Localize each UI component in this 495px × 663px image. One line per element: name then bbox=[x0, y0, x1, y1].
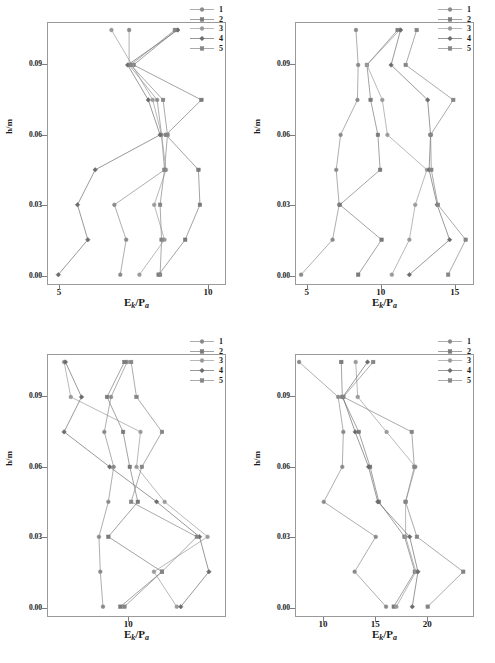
legend-label: 3 bbox=[467, 24, 471, 33]
legend-item[interactable]: 5 bbox=[189, 375, 241, 385]
legend-item[interactable]: 2 bbox=[437, 347, 489, 357]
y-tick-label: 0.09 bbox=[256, 59, 290, 68]
legend-item[interactable]: 3 bbox=[437, 24, 489, 34]
y-tick-label: 0.09 bbox=[8, 391, 42, 400]
legend-item[interactable]: 2 bbox=[189, 15, 241, 25]
series-lines-b bbox=[296, 23, 473, 284]
x-axis-label-b: Ek/Pa bbox=[295, 296, 474, 310]
y-tick-label: 0.00 bbox=[8, 603, 42, 612]
legend-marker-icon bbox=[189, 44, 215, 53]
y-tick-mark bbox=[290, 276, 295, 277]
y-tick-mark bbox=[42, 396, 47, 397]
plot-area-d bbox=[295, 354, 474, 617]
legend-marker-icon bbox=[189, 366, 215, 375]
legend-item[interactable]: 4 bbox=[437, 366, 489, 376]
legend-label: 3 bbox=[219, 24, 223, 33]
legend-label: 2 bbox=[219, 15, 223, 24]
legend-item[interactable]: 2 bbox=[189, 347, 241, 357]
legend-item[interactable]: 5 bbox=[437, 43, 489, 53]
legend-marker-icon bbox=[189, 24, 215, 33]
legend-item[interactable]: 3 bbox=[189, 24, 241, 34]
series-lines-c bbox=[48, 355, 225, 616]
legend-item[interactable]: 4 bbox=[189, 366, 241, 376]
legend-marker-icon bbox=[437, 366, 463, 375]
y-tick-label: 0.09 bbox=[256, 391, 290, 400]
y-tick-label: 0.06 bbox=[256, 462, 290, 471]
legend-label: 5 bbox=[219, 44, 223, 53]
legend-label: 3 bbox=[467, 356, 471, 365]
legend-marker-icon bbox=[189, 337, 215, 346]
legend-marker-icon bbox=[189, 347, 215, 356]
legend-label: 1 bbox=[467, 337, 471, 346]
legend-item[interactable]: 1 bbox=[189, 337, 241, 347]
legend-a: 12345 bbox=[189, 5, 241, 53]
x-axis-label-d: Ek/Pa bbox=[295, 628, 474, 642]
legend-d: 12345 bbox=[437, 337, 489, 385]
legend-label: 5 bbox=[219, 376, 223, 385]
x-tick-mark bbox=[455, 285, 456, 290]
series-line bbox=[111, 30, 166, 275]
x-tick-mark bbox=[381, 285, 382, 290]
x-axis-label-c: Ek/Pa bbox=[47, 628, 226, 642]
legend-item[interactable]: 4 bbox=[437, 34, 489, 44]
legend-marker-icon bbox=[437, 356, 463, 365]
legend-marker-icon bbox=[189, 5, 215, 14]
legend-marker-icon bbox=[437, 337, 463, 346]
legend-label: 4 bbox=[219, 366, 223, 375]
legend-marker-icon bbox=[437, 24, 463, 33]
legend-item[interactable]: 1 bbox=[189, 5, 241, 15]
y-tick-mark bbox=[290, 608, 295, 609]
series-line bbox=[343, 362, 463, 607]
legend-b: 12345 bbox=[437, 5, 489, 53]
legend-item[interactable]: 4 bbox=[189, 34, 241, 44]
legend-item[interactable]: 2 bbox=[437, 15, 489, 25]
y-tick-label: 0.06 bbox=[8, 462, 42, 471]
y-tick-label: 0.03 bbox=[256, 532, 290, 541]
y-tick-mark bbox=[290, 467, 295, 468]
legend-item[interactable]: 5 bbox=[437, 375, 489, 385]
legend-marker-icon bbox=[437, 5, 463, 14]
legend-item[interactable]: 1 bbox=[437, 5, 489, 15]
x-axis-label-a: Ek/Pa bbox=[47, 296, 226, 310]
series-line bbox=[301, 30, 358, 275]
plot-area-c bbox=[47, 354, 226, 617]
legend-item[interactable]: 1 bbox=[437, 337, 489, 347]
legend-marker-icon bbox=[437, 44, 463, 53]
y-tick-label: 0.00 bbox=[8, 271, 42, 280]
y-tick-mark bbox=[42, 608, 47, 609]
legend-item[interactable]: 3 bbox=[189, 356, 241, 366]
legend-item[interactable]: 3 bbox=[437, 356, 489, 366]
panel-d: h/m Ek/Pa d 12345 0.000.030.060.09101520 bbox=[248, 332, 495, 663]
legend-marker-icon bbox=[189, 34, 215, 43]
y-tick-mark bbox=[290, 396, 295, 397]
legend-label: 2 bbox=[467, 15, 471, 24]
x-tick-mark bbox=[128, 617, 129, 622]
plot-area-b bbox=[295, 22, 474, 285]
legend-item[interactable]: 5 bbox=[189, 43, 241, 53]
legend-label: 3 bbox=[219, 356, 223, 365]
y-tick-label: 0.03 bbox=[256, 200, 290, 209]
y-tick-mark bbox=[42, 64, 47, 65]
legend-label: 4 bbox=[467, 366, 471, 375]
panel-c: h/m Ek/Pa c 12345 0.000.030.060.0910 bbox=[0, 332, 247, 663]
figure-container: h/m Ek/Pa a 12345 0.000.030.060.09510 h/… bbox=[0, 0, 495, 663]
y-tick-mark bbox=[290, 64, 295, 65]
legend-label: 2 bbox=[467, 347, 471, 356]
series-line bbox=[99, 362, 127, 607]
series-line bbox=[134, 30, 202, 275]
legend-marker-icon bbox=[437, 34, 463, 43]
y-tick-mark bbox=[42, 537, 47, 538]
legend-label: 5 bbox=[467, 376, 471, 385]
y-tick-label: 0.03 bbox=[8, 532, 42, 541]
x-tick-mark bbox=[307, 285, 308, 290]
series-line bbox=[367, 30, 427, 275]
legend-marker-icon bbox=[189, 376, 215, 385]
series-line bbox=[406, 30, 466, 275]
legend-marker-icon bbox=[437, 347, 463, 356]
legend-label: 1 bbox=[467, 5, 471, 14]
series-lines-a bbox=[48, 23, 225, 284]
legend-marker-icon bbox=[189, 356, 215, 365]
x-tick-mark bbox=[427, 617, 428, 622]
y-tick-mark bbox=[42, 205, 47, 206]
y-tick-mark bbox=[290, 205, 295, 206]
